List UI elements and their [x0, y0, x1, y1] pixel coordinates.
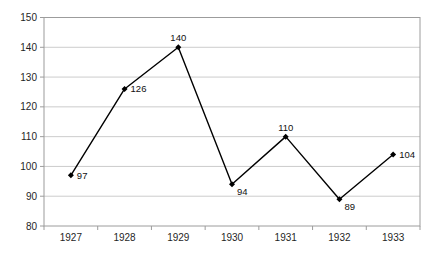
y-axis-label: 140: [20, 42, 37, 53]
x-axis-label: 1928: [113, 232, 136, 243]
data-point-label: 89: [344, 201, 355, 212]
y-axis-label: 90: [26, 191, 38, 202]
y-axis-label: 150: [20, 12, 37, 23]
line-chart-canvas: 8090100110120130140150192719281929193019…: [0, 0, 434, 258]
x-axis-label: 1929: [167, 232, 190, 243]
line-chart: 8090100110120130140150192719281929193019…: [0, 0, 434, 258]
data-point-label: 94: [237, 186, 248, 197]
x-axis-label: 1931: [275, 232, 298, 243]
x-axis-label: 1927: [60, 232, 83, 243]
data-point-label: 104: [399, 149, 415, 160]
data-point-label: 110: [278, 122, 293, 133]
y-axis-label: 130: [20, 72, 37, 83]
y-axis-label: 80: [26, 221, 38, 232]
plot-area-border: [44, 18, 420, 227]
data-point-label: 126: [131, 83, 147, 94]
x-axis-label: 1932: [328, 232, 351, 243]
data-point-label: 140: [170, 32, 186, 43]
x-axis-label: 1930: [221, 232, 244, 243]
series-line: [71, 47, 393, 199]
y-axis-label: 110: [21, 131, 37, 142]
x-axis-label: 1933: [382, 232, 405, 243]
data-point-label: 97: [77, 170, 88, 181]
y-axis-label: 120: [20, 101, 37, 112]
y-axis-label: 100: [20, 161, 37, 172]
